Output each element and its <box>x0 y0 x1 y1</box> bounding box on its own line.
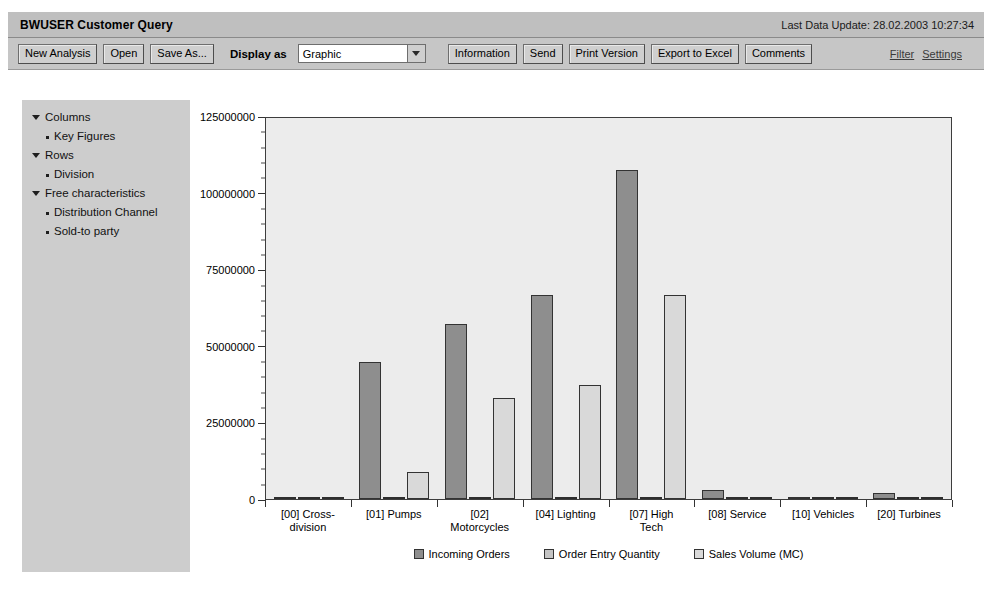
y-axis: 0250000005000000075000000100000000125000… <box>196 117 265 500</box>
nav-group-rows[interactable]: Rows <box>28 146 184 165</box>
bar-1-8[interactable] <box>873 493 895 499</box>
bar-1-1[interactable] <box>274 497 296 499</box>
open-button[interactable]: Open <box>103 44 144 64</box>
bullet-icon <box>46 231 49 234</box>
title-bar: BWUSER Customer Query Last Data Update: … <box>8 12 984 38</box>
x-axis-tick <box>952 500 953 507</box>
nav-item-label: Sold-to party <box>54 224 119 239</box>
x-axis-label: [04] Lighting <box>523 508 609 534</box>
bar-2-8[interactable] <box>897 497 919 499</box>
bar-groups <box>266 118 951 499</box>
legend-label: Order Entry Quantity <box>559 548 660 560</box>
bar-group <box>266 118 352 499</box>
bar-1-3[interactable] <box>445 324 467 499</box>
legend-item[interactable]: Order Entry Quantity <box>544 548 660 560</box>
nav-item-label: Key Figures <box>54 129 115 144</box>
chevron-down-icon[interactable] <box>32 153 40 158</box>
x-axis-labels: [00] Cross-division[01] Pumps[02]Motorcy… <box>265 508 952 534</box>
legend-swatch-icon <box>544 549 554 559</box>
nav-group-columns[interactable]: Columns <box>28 108 184 127</box>
save-as-button[interactable]: Save As... <box>150 44 214 64</box>
bar-group <box>694 118 780 499</box>
display-as-select[interactable]: Graphic <box>298 44 426 63</box>
nav-item-sold-to-party[interactable]: Sold-to party <box>28 222 184 241</box>
bar-group <box>865 118 951 499</box>
x-axis-label: [02]Motorcycles <box>437 508 523 534</box>
x-axis: [00] Cross-division[01] Pumps[02]Motorcy… <box>265 500 952 552</box>
y-axis-tick-label: 100000000 <box>200 188 258 200</box>
legend-swatch-icon <box>694 549 704 559</box>
y-axis-tick: 25000000 <box>206 417 265 429</box>
bar-2-2[interactable] <box>383 497 405 499</box>
x-axis-label: [00] Cross-division <box>265 508 351 534</box>
settings-link[interactable]: Settings <box>922 48 962 60</box>
bar-2-4[interactable] <box>555 497 577 499</box>
sap-bw-web-report: BWUSER Customer Query Last Data Update: … <box>0 0 992 592</box>
bar-3-3[interactable] <box>493 398 515 499</box>
bar-1-5[interactable] <box>616 170 638 499</box>
chevron-down-icon[interactable] <box>32 191 40 196</box>
legend-item[interactable]: Incoming Orders <box>414 548 510 560</box>
information-button[interactable]: Information <box>448 44 517 64</box>
y-axis-tick-mark <box>258 346 265 347</box>
bar-group <box>352 118 438 499</box>
print-version-button[interactable]: Print Version <box>569 44 645 64</box>
bar-2-1[interactable] <box>298 497 320 499</box>
y-axis-tick-label: 50000000 <box>206 341 258 353</box>
nav-item-label: Division <box>54 167 94 182</box>
bar-1-4[interactable] <box>531 295 553 499</box>
comments-button[interactable]: Comments <box>745 44 812 64</box>
filter-link[interactable]: Filter <box>890 48 914 60</box>
chevron-down-icon[interactable] <box>32 115 40 120</box>
nav-group-free-characteristics[interactable]: Free characteristics <box>28 184 184 203</box>
y-axis-tick: 50000000 <box>206 341 265 353</box>
last-data-update: Last Data Update: 28.02.2003 10:27:34 <box>781 19 974 31</box>
chevron-down-icon[interactable] <box>407 45 425 62</box>
bar-1-7[interactable] <box>788 497 810 499</box>
y-axis-tick: 100000000 <box>200 188 265 200</box>
nav-item-key-figures[interactable]: Key Figures <box>28 127 184 146</box>
y-axis-tick-mark <box>258 423 265 424</box>
bullet-icon <box>46 136 49 139</box>
y-axis-tick-label: 25000000 <box>206 417 258 429</box>
y-axis-tick-label: 125000000 <box>200 111 258 123</box>
bar-1-6[interactable] <box>702 490 724 499</box>
bar-group <box>780 118 866 499</box>
y-axis-tick: 125000000 <box>200 111 265 123</box>
bar-2-7[interactable] <box>812 497 834 499</box>
bar-3-7[interactable] <box>836 497 858 499</box>
bar-group <box>523 118 609 499</box>
export-to-excel-button[interactable]: Export to Excel <box>651 44 739 64</box>
send-button[interactable]: Send <box>523 44 563 64</box>
bar-1-2[interactable] <box>359 362 381 499</box>
nav-group-label: Rows <box>45 148 74 163</box>
bar-2-3[interactable] <box>469 497 491 499</box>
bar-3-6[interactable] <box>750 497 772 499</box>
bar-3-8[interactable] <box>921 497 943 499</box>
x-axis-tick <box>866 500 867 507</box>
bar-3-2[interactable] <box>407 472 429 499</box>
x-axis-tick <box>694 500 695 507</box>
bar-group <box>437 118 523 499</box>
legend-label: Sales Volume (MC) <box>709 548 804 560</box>
x-axis-label: [07] HighTech <box>609 508 695 534</box>
x-axis-label: [08] Service <box>694 508 780 534</box>
nav-item-distribution-channel[interactable]: Distribution Channel <box>28 203 184 222</box>
y-axis-tick-mark <box>258 500 265 501</box>
y-axis-tick-mark <box>258 270 265 271</box>
new-analysis-button[interactable]: New Analysis <box>18 44 97 64</box>
x-axis-tick <box>265 500 266 507</box>
x-axis-label: [01] Pumps <box>351 508 437 534</box>
y-axis-tick-label: 75000000 <box>206 264 258 276</box>
bar-2-5[interactable] <box>640 497 662 499</box>
display-as-value: Graphic <box>299 45 407 62</box>
x-axis-tick <box>437 500 438 507</box>
nav-item-division[interactable]: Division <box>28 165 184 184</box>
bar-3-4[interactable] <box>579 385 601 499</box>
bar-3-5[interactable] <box>664 295 686 499</box>
toolbar: New Analysis Open Save As... Display as … <box>8 38 984 70</box>
bar-2-6[interactable] <box>726 497 748 499</box>
bar-3-1[interactable] <box>322 497 344 499</box>
legend-item[interactable]: Sales Volume (MC) <box>694 548 804 560</box>
bar-group <box>609 118 695 499</box>
